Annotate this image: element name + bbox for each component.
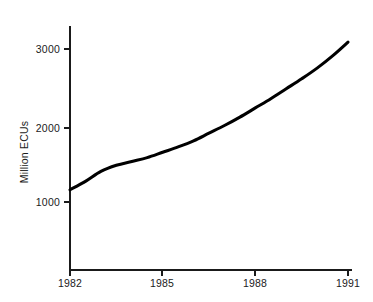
data-series-line	[70, 42, 348, 190]
y-tick-group: 3000 2000 1000	[36, 43, 70, 208]
x-tick-group: 1982 1985 1988 1991	[58, 270, 360, 289]
x-tick-label-1991: 1991	[336, 277, 360, 289]
y-tick-label-3000: 3000	[36, 43, 60, 55]
chart-figure: 3000 2000 1000 1982 1985 1988 1991 Milli…	[0, 0, 373, 302]
y-axis-title: Million ECUs	[18, 121, 30, 184]
y-tick-label-1000: 1000	[36, 196, 60, 208]
line-chart: 3000 2000 1000 1982 1985 1988 1991 Milli…	[0, 0, 373, 302]
x-tick-label-1988: 1988	[243, 277, 267, 289]
x-tick-label-1985: 1985	[150, 277, 174, 289]
y-tick-label-2000: 2000	[36, 122, 60, 134]
x-tick-label-1982: 1982	[58, 277, 82, 289]
